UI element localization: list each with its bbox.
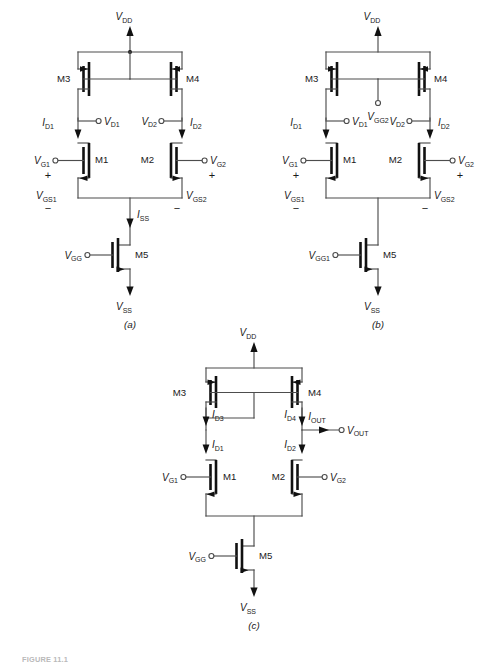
panel-b-m1-label: M1 <box>343 154 356 165</box>
panel-a-id1-label: ID1 <box>42 117 54 130</box>
panel-c-m4-label: M4 <box>308 387 322 398</box>
panel-b-vd2-terminal <box>407 119 430 124</box>
panel-a-transistor-m5 <box>85 238 134 296</box>
panel-b-vd1-terminal <box>326 119 349 124</box>
panel-c-id3-label: ID3 <box>212 409 224 422</box>
panel-c-vgg-label: VGG <box>188 551 206 564</box>
panel-c-transistor-m4 <box>254 376 302 430</box>
panel-a-m5-label: M5 <box>135 249 148 260</box>
panel-a-vg2-label: VG2 <box>210 155 226 168</box>
panel-b-vdd-label: VDD <box>364 11 381 24</box>
panel-c-transistor-m1 <box>181 460 216 516</box>
panel-b-vd2-label: VD2 <box>389 116 405 129</box>
panel-b-vgs2-plus: + <box>457 169 463 181</box>
panel-a-transistor-m4 <box>130 62 182 120</box>
figure-root: VDD M3 <box>0 0 497 665</box>
panel-a-vgs1-minus: − <box>45 202 51 214</box>
panel-c-caption: (c) <box>248 620 259 631</box>
panel-c-id4-label: ID4 <box>284 409 296 422</box>
panel-c-m5-label: M5 <box>259 550 272 561</box>
panel-b: VDD M3 M4 <box>282 11 474 330</box>
panel-c-id1-arrow <box>203 430 210 454</box>
panel-a-vd2-label: VD2 <box>141 116 157 129</box>
panel-c-output-branch <box>302 427 344 434</box>
panel-c-iout-label: IOUT <box>308 411 326 424</box>
panel-a-vdd-label: VDD <box>116 11 133 24</box>
panel-b-vdd-supply <box>374 26 381 52</box>
panel-b-vgs1-plus: + <box>293 169 299 181</box>
panel-b-vgs2-label: VGS2 <box>434 190 455 203</box>
panel-a-m2-label: M2 <box>141 154 154 165</box>
panel-b-transistor-m1 <box>301 143 337 198</box>
panel-b-vgg2-label: VGG2 <box>367 111 389 124</box>
panel-a-iss-label: ISS <box>137 209 149 222</box>
panel-b-m2-label: M2 <box>389 154 402 165</box>
panel-a-caption: (a) <box>124 319 136 330</box>
panel-c: VDD M3 M4 <box>162 327 369 631</box>
panel-a-vd1-label: VD1 <box>104 116 120 129</box>
panel-c-m2-label: M2 <box>272 471 285 482</box>
panel-b-transistor-m5 <box>333 238 382 296</box>
panel-a-m3-label: M3 <box>57 73 70 84</box>
panel-c-id4-arrow <box>299 408 306 426</box>
panel-b-vgg2-terminal <box>376 79 381 106</box>
panel-b-id1-label: ID1 <box>290 117 302 130</box>
panel-b-vg2-label: VG2 <box>458 155 474 168</box>
panel-c-vdd-label: VDD <box>240 327 257 340</box>
panel-a-m1-label: M1 <box>95 154 108 165</box>
panel-c-transistor-m2 <box>292 460 327 516</box>
panel-a: VDD M3 <box>34 11 226 330</box>
panel-a-id2-label: ID2 <box>190 117 202 130</box>
panel-a-vgg-label: VGG <box>64 250 82 263</box>
panel-a-vgs1-plus: + <box>45 169 51 181</box>
panel-a-transistor-m1 <box>53 143 89 198</box>
panel-c-id2-arrow <box>299 430 306 454</box>
panel-b-transistor-m4 <box>378 62 430 120</box>
panel-b-vgg1-label: VGG1 <box>309 250 331 263</box>
panel-b-id2-label: ID2 <box>438 117 450 130</box>
panel-b-m4-label: M4 <box>434 73 448 84</box>
panel-b-vg1-label: VG1 <box>282 155 298 168</box>
figure-caption: FIGURE 11.1 <box>22 655 322 665</box>
panel-a-vg1-label: VG1 <box>34 155 50 168</box>
circuit-diagram-canvas: VDD M3 <box>0 0 497 665</box>
panel-b-m3-label: M3 <box>305 73 318 84</box>
panel-c-id2-label: ID2 <box>284 439 296 452</box>
panel-b-caption: (b) <box>372 319 384 330</box>
panel-a-vss-label: VSS <box>116 301 132 314</box>
panel-c-transistor-m3 <box>206 376 254 430</box>
panel-a-vgs2-plus: + <box>209 169 215 181</box>
panel-c-vg2-label: VG2 <box>330 472 346 485</box>
panel-a-vd1-terminal <box>78 119 101 124</box>
panel-c-vg1-label: VG1 <box>162 472 178 485</box>
panel-b-vss-label: VSS <box>364 301 380 314</box>
panel-b-m5-label: M5 <box>383 249 396 260</box>
panel-c-m1-label: M1 <box>223 471 236 482</box>
panel-c-transistor-m5 <box>209 539 258 597</box>
panel-c-m3-label: M3 <box>173 387 186 398</box>
panel-a-vgs2-minus: − <box>174 202 180 214</box>
panel-b-vgs2-minus: − <box>422 202 428 214</box>
panel-b-vgs1-label: VGS1 <box>284 190 305 203</box>
panel-a-vd2-terminal <box>159 119 182 124</box>
panel-a-m4-label: M4 <box>186 73 200 84</box>
panel-a-transistor-m3 <box>78 62 130 120</box>
panel-a-vgs2-label: VGS2 <box>186 190 207 203</box>
panel-b-vgs1-minus: − <box>293 202 299 214</box>
panel-b-vd1-label: VD1 <box>352 116 368 129</box>
panel-a-vgs1-label: VGS1 <box>36 190 57 203</box>
panel-a-iss-arrow <box>126 219 133 229</box>
panel-c-vss-label: VSS <box>240 602 256 615</box>
panel-c-vout-label: VOUT <box>347 425 369 438</box>
panel-c-vdd-supply <box>250 342 257 368</box>
panel-c-id1-label: ID1 <box>212 439 224 452</box>
panel-c-id3-arrow <box>203 408 210 426</box>
panel-a-vdd-supply <box>126 26 133 54</box>
